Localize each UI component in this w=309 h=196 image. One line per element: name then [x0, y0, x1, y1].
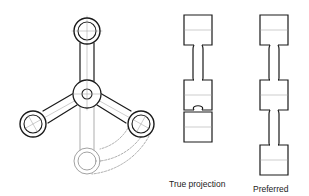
hub	[73, 80, 101, 108]
boss-left	[20, 111, 46, 137]
arm-left	[43, 93, 77, 123]
true-projection-label: True projection	[169, 179, 225, 189]
boss-top	[74, 18, 100, 44]
true-projection-view	[184, 15, 212, 142]
preferred-label: Preferred	[253, 184, 288, 194]
spider-front-view	[20, 16, 154, 174]
projection-lines	[80, 106, 94, 150]
revolved-boss	[74, 148, 100, 174]
preferred-view	[260, 15, 288, 175]
boss-right	[128, 111, 154, 137]
arm-right	[97, 93, 131, 123]
technical-drawing	[0, 0, 309, 196]
